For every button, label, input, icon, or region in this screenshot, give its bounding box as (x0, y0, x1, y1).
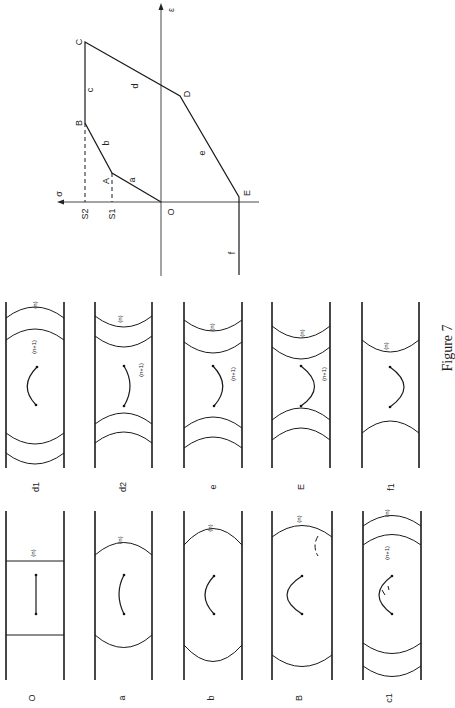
point-label-O: O (166, 208, 176, 215)
panel-tag: (n) (299, 329, 305, 336)
panel-tag: (n) (117, 536, 123, 543)
point-label-C: C (74, 38, 84, 45)
figure-caption: Figure 7 (440, 324, 455, 371)
point-label-E: E (242, 190, 252, 196)
panel-O: (n) (6, 511, 64, 680)
panel-label-d2: d2 (118, 482, 128, 492)
panel-label-a: a (117, 695, 127, 700)
sigma-arrow-icon (57, 200, 64, 205)
s2-label: S2 (80, 208, 90, 219)
panel-tag: (n) (207, 524, 213, 531)
panel-tag: (n) (30, 549, 36, 556)
panel-tag: (n) (296, 515, 302, 522)
panel-e: (n) (n+1) (184, 302, 242, 468)
panel-f1: (n) (362, 302, 419, 468)
panel-tag: (n+1) (230, 367, 236, 381)
panels-bottom-row: (n) (n) (n) (6, 509, 421, 702)
panel-tag: (n) (384, 509, 390, 516)
panel-label-E: E (296, 484, 306, 490)
panel-a: (n) (95, 511, 152, 680)
panel-tag: (n+1) (321, 367, 327, 381)
segment-label-e: e (197, 150, 207, 155)
segment-label-c: c (85, 87, 95, 92)
panel-tag: (n) (383, 342, 389, 349)
panel-b: (n) (184, 511, 242, 680)
panel-d1: (n) (n+1) (6, 301, 64, 468)
panel-tag: (n) (32, 301, 38, 308)
panel-tag: (n) (209, 323, 215, 330)
point-label-D: D (182, 90, 192, 97)
segment-label-a: a (127, 177, 137, 182)
figure-canvas: C B A O D E a b c d e f ε σ S2 S1 (n) (n (0, 0, 455, 708)
panel-E: (n) (n+1) (272, 302, 330, 468)
s1-label: S1 (107, 208, 117, 219)
panel-tag: (n+1) (384, 546, 390, 560)
stress-strain-curve (85, 42, 239, 275)
panel-c1: (n) (n+1) (363, 509, 421, 680)
segment-label-b: b (101, 140, 111, 145)
panel-label-O: O (27, 694, 37, 701)
panel-tag: (n) (117, 315, 123, 322)
panel-d2: (n) (n+1) (95, 302, 152, 468)
segment-label-d: d (130, 83, 140, 88)
panel-label-d1: d1 (31, 482, 41, 492)
panel-label-b: b (206, 695, 216, 700)
panel-tag: (n+1) (31, 340, 37, 354)
epsilon-label: ε (166, 8, 176, 12)
point-label-A: A (101, 178, 111, 184)
panel-label-c1: c1 (384, 693, 394, 703)
panels-top-row: (n) (n+1) (n) (n+1) (n) (n+1 (6, 301, 419, 492)
panel-label-f1: f1 (386, 483, 396, 491)
panel-tag: (n+1) (138, 363, 144, 377)
epsilon-arrow-icon (159, 3, 164, 10)
sigma-label: σ (54, 191, 64, 197)
panel-label-B: B (294, 695, 304, 701)
panel-label-e: e (208, 484, 218, 489)
point-label-B: B (74, 120, 84, 126)
panel-B: (n) (272, 511, 332, 680)
segment-label-f: f (227, 251, 237, 254)
stress-strain-chart: C B A O D E a b c d e f ε σ S2 S1 (54, 3, 259, 276)
